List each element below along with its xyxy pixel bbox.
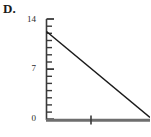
- y-tick-label-14: 14: [16, 15, 36, 24]
- data-line-series: [47, 32, 151, 118]
- y-tick-label-0: 0: [16, 114, 36, 123]
- y-tick-label-7: 7: [16, 64, 36, 73]
- answer-choice-figure: D.: [0, 0, 150, 137]
